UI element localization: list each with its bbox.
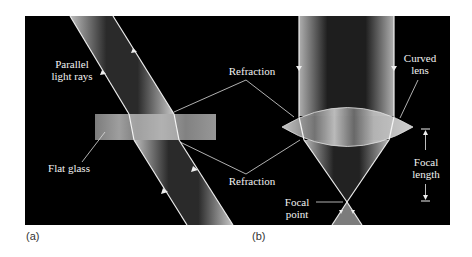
label-line: lens [400, 64, 440, 76]
label-flat-glass: Flat glass [44, 162, 94, 174]
incoming-beam [299, 16, 394, 116]
label-focal-length: Focal length [405, 156, 447, 180]
label-line: Focal [405, 156, 447, 168]
label-line: Parallel [44, 58, 100, 70]
caption-a: (a) [26, 230, 39, 242]
label-line: Curved [400, 52, 440, 64]
label-focal-point: Focal point [280, 196, 314, 220]
label-refraction-top: Refraction [219, 65, 285, 77]
label-line: point [280, 208, 314, 220]
label-line: length [405, 168, 447, 180]
label-parallel-light-rays: Parallel light rays [44, 58, 100, 82]
label-refraction-bottom: Refraction [219, 175, 285, 187]
label-curved-lens: Curved lens [400, 52, 440, 76]
refraction-diagram [0, 0, 472, 257]
label-line: light rays [44, 70, 100, 82]
caption-b: (b) [252, 230, 265, 242]
label-line: Focal [280, 196, 314, 208]
